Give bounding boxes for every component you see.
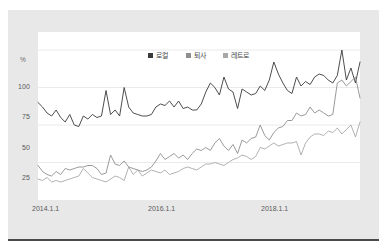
- series-line-1: [38, 77, 360, 176]
- x-tick-label-1: 2016.1.1: [148, 205, 175, 212]
- card-top-margin: [0, 0, 385, 10]
- y-axis-unit-label: %: [20, 56, 26, 63]
- card-left-margin: [0, 0, 8, 250]
- card-bottom-margin: [0, 241, 385, 250]
- gridlines: [38, 50, 360, 163]
- x-tick-label-2: 2018.1.1: [261, 205, 288, 212]
- x-tick-label-0: 2014.1.1: [32, 205, 59, 212]
- line-chart: [0, 0, 385, 250]
- chart-card: % 100 75 50 25 로컬 퇴사 레트로 2014.1.1 2016.1…: [0, 0, 385, 250]
- card-right-margin: [379, 0, 385, 250]
- series-line-2: [38, 122, 360, 182]
- series-line-0: [38, 50, 360, 127]
